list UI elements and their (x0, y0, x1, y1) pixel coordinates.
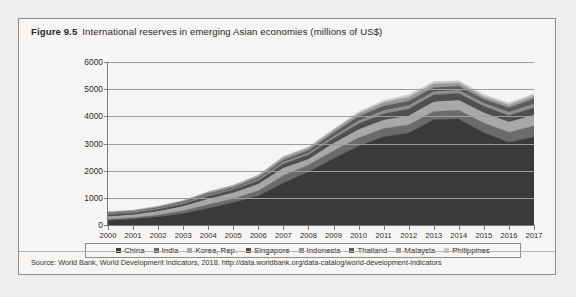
x-axis-label: 2008 (300, 231, 317, 240)
x-axis-tick (384, 225, 385, 230)
x-axis-tick (133, 225, 134, 230)
x-axis-tick (183, 225, 184, 230)
x-axis-label: 2003 (175, 231, 192, 240)
figure-card: Figure 9.5International reserves in emer… (18, 18, 556, 275)
x-axis-tick (434, 225, 435, 230)
x-axis-label: 2002 (150, 231, 167, 240)
x-axis-label: 2001 (125, 231, 142, 240)
x-axis-label: 2012 (400, 231, 417, 240)
y-axis-label: 1000 (84, 193, 103, 203)
x-axis-tick (484, 225, 485, 230)
x-axis-tick (459, 225, 460, 230)
x-axis-tick (258, 225, 259, 230)
figure-title: Figure 9.5International reserves in emer… (31, 26, 382, 37)
card-divider (19, 251, 555, 252)
x-axis-tick (158, 225, 159, 230)
figure-number: Figure 9.5 (31, 26, 77, 37)
x-axis-label: 2009 (325, 231, 342, 240)
x-axis-tick (534, 225, 535, 230)
x-axis-tick (233, 225, 234, 230)
x-axis-label: 2011 (375, 231, 391, 240)
y-axis-tick (104, 89, 108, 90)
y-axis-tick (104, 62, 108, 63)
x-axis-tick (409, 225, 410, 230)
x-axis-tick (359, 225, 360, 230)
figure-caption: International reserves in emerging Asian… (82, 26, 382, 37)
y-axis-label: 2000 (84, 166, 103, 176)
y-axis-tick (104, 171, 108, 172)
y-axis-tick (104, 198, 108, 199)
gridline (108, 116, 534, 117)
x-axis-tick (509, 225, 510, 230)
gridline (108, 89, 534, 90)
x-axis-label: 2016 (500, 231, 517, 240)
screenshot-root: Figure 9.5International reserves in emer… (0, 0, 576, 297)
source-note: Source: World Bank, World Development In… (31, 258, 442, 267)
x-axis-label: 2013 (425, 231, 442, 240)
gridline (108, 62, 534, 63)
y-axis-label: 4000 (84, 111, 103, 121)
x-axis-tick (208, 225, 209, 230)
y-axis-label: 3000 (84, 139, 103, 149)
x-axis-label: 2015 (475, 231, 492, 240)
x-axis-label: 2010 (350, 231, 367, 240)
x-axis-tick (283, 225, 284, 230)
x-axis-label: 2000 (100, 231, 117, 240)
y-axis-tick (104, 144, 108, 145)
y-axis-label: 6000 (84, 57, 103, 67)
gridline (108, 144, 534, 145)
x-axis-tick (108, 225, 109, 230)
x-axis-label: 2006 (250, 231, 267, 240)
gridline (108, 171, 534, 172)
gridline (108, 198, 534, 199)
x-axis-label: 2007 (275, 231, 292, 240)
x-axis-label: 2014 (450, 231, 467, 240)
x-axis-tick (308, 225, 309, 230)
y-axis-tick (104, 116, 108, 117)
x-axis-label: 2005 (225, 231, 242, 240)
x-axis-tick (334, 225, 335, 230)
y-axis-label: 0 (98, 220, 103, 230)
x-axis-label: 2004 (200, 231, 217, 240)
chart-axes: 0100020003000400050006000200020012002200… (107, 62, 534, 226)
y-axis-label: 5000 (84, 84, 103, 94)
chart-plot-area: 0100020003000400050006000200020012002200… (71, 55, 539, 235)
x-axis-label: 2017 (526, 231, 543, 240)
